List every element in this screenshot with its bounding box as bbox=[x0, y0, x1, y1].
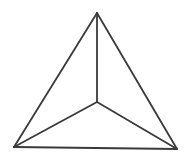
tetrahedron-diagram bbox=[0, 0, 188, 158]
diagram-canvas bbox=[0, 0, 188, 158]
diagram-edges bbox=[14, 13, 177, 149]
edge-center-to-bottom-right bbox=[97, 102, 177, 149]
edge-center-to-bottom-left bbox=[14, 102, 97, 147]
edge-bottom-left-to-bottom-right bbox=[14, 147, 177, 149]
edge-apex-to-bottom-right bbox=[97, 13, 177, 149]
edge-apex-to-bottom-left bbox=[14, 13, 97, 147]
